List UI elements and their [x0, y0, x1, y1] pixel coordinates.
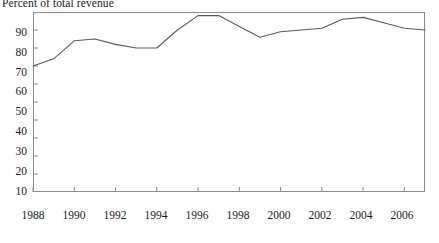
x-tick-label-2006: 2006 — [380, 210, 424, 222]
x-tick-label-1996: 1996 — [175, 210, 219, 222]
plot-area — [33, 12, 425, 192]
x-tick-label-2002: 2002 — [298, 210, 342, 222]
x-tick-label-1998: 1998 — [216, 210, 260, 222]
y-tick-label-60: 60 — [1, 86, 27, 98]
x-tick-label-2004: 2004 — [339, 210, 383, 222]
y-tick-label-40: 40 — [1, 126, 27, 138]
y-tick-label-50: 50 — [1, 106, 27, 118]
y-tick-label-80: 80 — [1, 47, 27, 59]
y-tick-label-10: 10 — [1, 186, 27, 198]
x-tick-label-2000: 2000 — [257, 210, 301, 222]
x-tick-label-1990: 1990 — [52, 210, 96, 222]
chart-container: Percent of total revenue 90 80 70 60 50 … — [0, 0, 439, 243]
y-tick-label-70: 70 — [1, 67, 27, 79]
x-tick-label-1992: 1992 — [93, 210, 137, 222]
y-tick-label-30: 30 — [1, 146, 27, 158]
x-tick-label-1988: 1988 — [11, 210, 55, 222]
x-tick-label-1994: 1994 — [134, 210, 178, 222]
y-tick-label-20: 20 — [1, 166, 27, 178]
y-tick-label-90: 90 — [1, 27, 27, 39]
chart-title: Percent of total revenue — [2, 0, 114, 9]
